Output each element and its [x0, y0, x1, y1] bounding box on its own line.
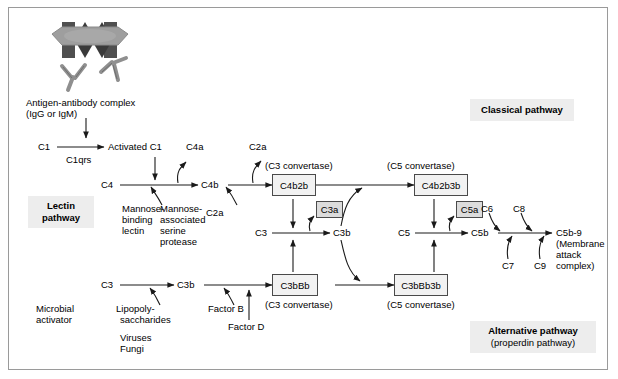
c2a-released-label: C2a	[249, 141, 266, 153]
microbial-activator-line2: activator	[36, 314, 72, 326]
antigen-complex-label-line1: Antigen-antibody complex	[26, 97, 135, 109]
alternative-pathway-label: Alternative pathway (properdin pathway)	[470, 321, 596, 353]
central-c3b-label: C3b	[333, 227, 350, 239]
mbl-label-line2: binding	[122, 214, 153, 226]
mac-label-line3: attack	[556, 249, 581, 261]
c7-label: C7	[502, 260, 514, 272]
classical-c3-convertase-caption: (C3 convertase)	[265, 160, 333, 172]
c3a-box[interactable]: C3a	[316, 201, 343, 218]
activated-c1-label: Activated C1	[108, 141, 162, 153]
c4b-label: C4b	[201, 179, 218, 191]
c1-label: C1	[38, 141, 50, 153]
c3bbb-box[interactable]: C3bBb	[272, 274, 318, 296]
viruses-label: Viruses	[120, 332, 152, 344]
lectin-pathway-text-line1: Lectin	[47, 200, 75, 212]
central-c5-label: C5	[398, 227, 410, 239]
masp-label-line3: serine	[160, 225, 186, 237]
masp-label-line4: protease	[160, 236, 197, 248]
central-c3-label: C3	[255, 227, 267, 239]
alternative-pathway-text-line1: Alternative pathway	[488, 325, 578, 337]
c3bbb3b-box[interactable]: C3bBb3b	[394, 274, 448, 296]
lectin-pathway-label: Lectin pathway	[28, 196, 94, 228]
mbl-label-line3: lectin	[122, 225, 144, 237]
c2a-input-label: C2a	[206, 207, 223, 219]
alternative-c3-convertase-caption: (C3 convertase)	[265, 299, 333, 311]
mbl-label-line1: Mannose-	[122, 203, 164, 215]
factor-b-label: Factor B	[208, 303, 244, 315]
antigen-complex-label-line2: (IgG or IgM)	[26, 108, 77, 120]
c6-label: C6	[481, 203, 493, 215]
c8-label: C8	[513, 203, 525, 215]
complement-pathway-figure: Antigen-antibody complex (IgG or IgM)	[0, 0, 618, 379]
lectin-pathway-text-line2: pathway	[42, 212, 80, 224]
alternative-pathway-text-line2: (properdin pathway)	[491, 337, 576, 349]
factor-d-label: Factor D	[228, 321, 264, 333]
classical-c5-convertase-caption: (C5 convertase)	[387, 160, 455, 172]
masp-label-line2: associated	[160, 214, 205, 226]
microbial-activator-line1: Microbial	[36, 303, 74, 315]
lps-label-line2: saccharides	[120, 314, 171, 326]
c4-label: C4	[101, 179, 113, 191]
lps-label-line1: Lipopoly-	[116, 303, 155, 315]
masp-label-line1: Mannose-	[160, 203, 202, 215]
c1qrs-label: C1qrs	[66, 154, 91, 166]
c5a-box[interactable]: C5a	[456, 201, 483, 218]
mac-label-line1: C5b-9	[556, 227, 582, 239]
c9-label: C9	[534, 260, 546, 272]
central-c5b-label: C5b	[471, 227, 488, 239]
alternative-c3b-label: C3b	[177, 279, 194, 291]
c4b2b-box[interactable]: C4b2b	[272, 174, 316, 196]
classical-pathway-text: Classical pathway	[481, 104, 563, 116]
mac-label-line2: (Membrane	[556, 238, 605, 250]
mac-label-line4: complex)	[556, 260, 595, 272]
classical-pathway-label: Classical pathway	[470, 99, 574, 121]
c4a-label: C4a	[186, 141, 203, 153]
c4b2b3b-box[interactable]: C4b2b3b	[414, 174, 468, 196]
fungi-label: Fungi	[120, 343, 144, 355]
alternative-c5-convertase-caption: (C5 convertase)	[387, 299, 455, 311]
alternative-c3-label: C3	[101, 279, 113, 291]
